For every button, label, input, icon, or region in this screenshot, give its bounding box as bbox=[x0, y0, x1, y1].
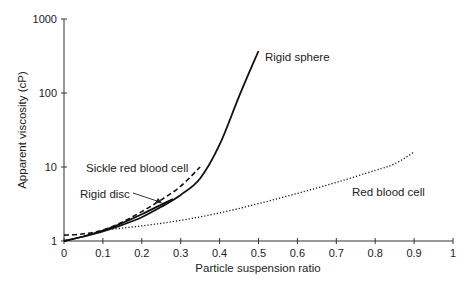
x-tick-label: 0.3 bbox=[173, 247, 188, 259]
y-axis-label: Apparent viscosity (cP) bbox=[16, 71, 28, 189]
label-rigid-sphere: Rigid sphere bbox=[265, 51, 330, 63]
y-tick-label: 10 bbox=[45, 161, 57, 173]
x-tick-label: 0 bbox=[61, 247, 67, 259]
series-rigid-sphere bbox=[64, 51, 259, 241]
y-tick-label: 1 bbox=[51, 235, 57, 247]
x-tick-label: 0.2 bbox=[134, 247, 149, 259]
y-ticks: 1101001000 bbox=[33, 13, 67, 247]
series-sickle-red-blood-cell bbox=[64, 167, 200, 235]
y-tick-label: 100 bbox=[39, 87, 57, 99]
x-tick-label: 0.1 bbox=[95, 247, 110, 259]
x-tick-label: 1 bbox=[450, 247, 456, 259]
x-tick-label: 0.9 bbox=[406, 247, 421, 259]
label-red-blood-cell: Red blood cell bbox=[352, 186, 425, 198]
x-tick-label: 0.5 bbox=[251, 247, 266, 259]
x-tick-label: 0.6 bbox=[290, 247, 305, 259]
label-rigid-disc: Rigid disc bbox=[80, 188, 130, 200]
viscosity-chart: 00.10.20.30.40.50.60.70.80.91 1101001000… bbox=[0, 0, 472, 284]
x-tick-label: 0.4 bbox=[212, 247, 227, 259]
label-sickle-red-blood-cell: Sickle red blood cell bbox=[86, 162, 188, 174]
data-series bbox=[64, 51, 414, 241]
x-tick-label: 0.7 bbox=[329, 247, 344, 259]
x-tick-label: 0.8 bbox=[368, 247, 383, 259]
rigid-disc-arrow bbox=[133, 193, 160, 202]
x-axis-label: Particle suspension ratio bbox=[195, 262, 320, 274]
y-tick-label: 1000 bbox=[33, 13, 57, 25]
